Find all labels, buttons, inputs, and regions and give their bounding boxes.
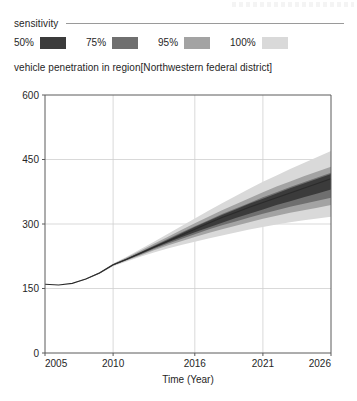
y-tick-label: 600: [22, 90, 39, 101]
x-axis-title: Time (Year): [162, 374, 214, 385]
x-tick-label: 2010: [102, 358, 125, 369]
fan-chart-page: sensitivity 50%75%95%100% vehicle penetr…: [0, 0, 357, 401]
y-tick-label: 300: [22, 219, 39, 230]
x-tick-label: 2021: [252, 358, 275, 369]
x-tick-label: 2016: [184, 358, 207, 369]
x-tick-label: 2026: [309, 358, 332, 369]
y-tick-label: 150: [22, 283, 39, 294]
x-tick-label: 2005: [45, 358, 68, 369]
fan-band-100pct: [45, 151, 331, 285]
y-tick-label: 450: [22, 154, 39, 165]
plot-area: 015030045060020052010201620212026Time (Y…: [0, 0, 357, 401]
y-tick-label: 0: [33, 348, 39, 359]
fan-chart-svg: 015030045060020052010201620212026Time (Y…: [0, 0, 357, 401]
